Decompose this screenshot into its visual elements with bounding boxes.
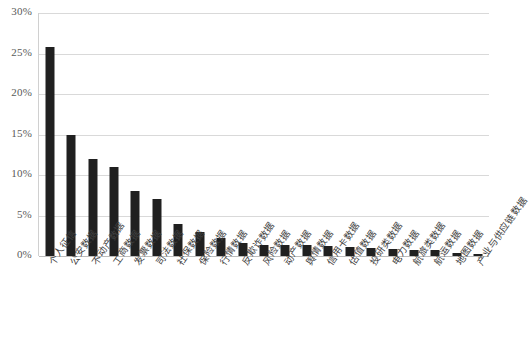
bar-slot	[125, 13, 146, 256]
bar-slot	[189, 13, 210, 256]
bar-slot	[425, 13, 446, 256]
bar-slot	[60, 13, 81, 256]
bar-slot	[360, 13, 381, 256]
bar-slot	[210, 13, 231, 256]
bar-slot	[296, 13, 317, 256]
y-axis-tick-label: 15%	[11, 128, 32, 139]
y-axis-tick-label: 0%	[17, 249, 32, 260]
bar-slot	[103, 13, 124, 256]
bar[interactable]	[45, 47, 54, 256]
y-axis-tick-label: 10%	[11, 168, 32, 179]
plot-area: 0%5%10%15%20%25%30%	[38, 13, 488, 256]
y-axis-tick-label: 30%	[11, 6, 32, 17]
bar-slot	[253, 13, 274, 256]
bar-slot	[82, 13, 103, 256]
bar-slot	[339, 13, 360, 256]
y-axis-tick-label: 25%	[11, 47, 32, 58]
bars-layer	[39, 13, 489, 256]
bar-slot	[39, 13, 60, 256]
x-axis-labels: 个人征信公安数据不动产数据工商数据发票数据司法数据社保数据保险数据行情数据反欺诈…	[38, 258, 488, 350]
bar-slot	[146, 13, 167, 256]
bar-slot	[275, 13, 296, 256]
bar-slot	[168, 13, 189, 256]
bar-slot	[468, 13, 489, 256]
y-axis-tick-label: 20%	[11, 87, 32, 98]
bar-slot	[232, 13, 253, 256]
bar-slot	[382, 13, 403, 256]
bar-slot	[318, 13, 339, 256]
y-axis-tick-label: 5%	[17, 209, 32, 220]
bar-slot	[403, 13, 424, 256]
bar-slot	[446, 13, 467, 256]
